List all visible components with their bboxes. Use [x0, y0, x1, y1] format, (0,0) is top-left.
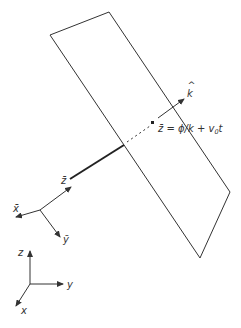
equation-tail: t [219, 123, 224, 134]
k-hat-caret: ^ [188, 79, 196, 90]
k-hat-arrow [158, 99, 184, 118]
z-bar-axis-dotted [127, 126, 150, 142]
equation-main: z̄ = ϕ/k + v [157, 123, 215, 134]
lab-frame-axes: z y x [16, 247, 74, 316]
z-bar-axis-arrow [40, 187, 71, 210]
wave-front-plane [50, 12, 230, 258]
wavefront-point [151, 121, 154, 124]
y-label: y [66, 279, 74, 290]
x-bar-label: x̄ [12, 203, 19, 214]
diagram-canvas: k ^ z̄ = ϕ/k + v0t z̄ x̄ ȳ z y x [0, 0, 241, 328]
x-bar-axis-arrow [16, 210, 40, 217]
moving-frame-axes: z̄ x̄ ȳ [12, 175, 71, 245]
y-bar-label: ȳ [62, 234, 70, 245]
z-label: z [17, 247, 24, 258]
z-bar-axis-thick [70, 145, 124, 179]
x-axis-arrow [16, 284, 30, 306]
wavefront-equation: z̄ = ϕ/k + v0t [157, 123, 224, 136]
x-label: x [20, 305, 27, 316]
y-bar-axis-arrow [40, 210, 60, 237]
z-bar-label: z̄ [60, 175, 67, 186]
